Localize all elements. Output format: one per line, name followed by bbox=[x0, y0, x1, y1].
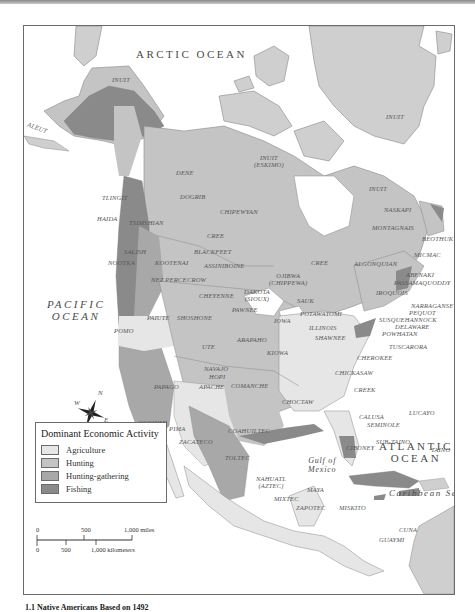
label-tlingit: TLINGIT bbox=[102, 194, 128, 201]
legend-item-fishing: Fishing bbox=[41, 484, 92, 494]
label-papago: PAPAGO bbox=[154, 383, 179, 390]
label-passamaquoddy: PASSAMAQUODDY bbox=[394, 279, 451, 286]
label-inuit-greenland: INUIT bbox=[386, 113, 404, 120]
label-tuscarora: TUSCARORA bbox=[389, 343, 427, 350]
label-potawatomi: POTAWATOMI bbox=[300, 310, 342, 317]
label-maya: MAYA bbox=[307, 486, 324, 493]
label-cree-east: CREE bbox=[311, 259, 328, 266]
label-crow: CROW bbox=[187, 276, 206, 283]
label-comanche: COMANCHE bbox=[231, 382, 268, 389]
label-taino: TAINO bbox=[431, 446, 450, 453]
swatch-agriculture bbox=[41, 445, 59, 455]
label-creek: CREEK bbox=[354, 386, 376, 393]
label-powhatan: POWHATAN bbox=[382, 330, 418, 337]
label-algonquian: ALGONQUIAN bbox=[354, 260, 397, 267]
arctic-ocean-label: ARCTIC OCEAN bbox=[136, 48, 247, 60]
label-cree-west: CREE bbox=[207, 232, 224, 239]
label-kiowa: KIOWA bbox=[267, 349, 288, 356]
label-hopi: HOPI bbox=[209, 373, 225, 380]
label-sauk: SAUK bbox=[297, 297, 314, 304]
label-nez-perce: NEZ PERCE bbox=[151, 276, 187, 283]
label-montagnais: MONTAGNAIS bbox=[372, 224, 414, 231]
label-tsimshian: TSIMSHIAN bbox=[129, 219, 164, 226]
label-shoshone: SHOSHONE bbox=[177, 314, 212, 321]
label-lucayo: LUCAYO bbox=[409, 409, 435, 416]
label-blackfeet: BLACKFEET bbox=[194, 248, 232, 255]
label-narragansett: NARRAGANSETT bbox=[411, 302, 455, 309]
label-dogrib: DOGRIB bbox=[180, 193, 205, 200]
swatch-hunting bbox=[41, 458, 59, 468]
label-cheyenne: CHEYENNE bbox=[199, 292, 234, 299]
map-frame: ARCTIC OCEAN PACIFIC OCEAN ATLANTIC OCEA… bbox=[23, 25, 455, 595]
label-inuit-eskimo: INUIT (ESKIMO) bbox=[254, 154, 284, 168]
label-apache: APACHE bbox=[199, 383, 224, 390]
label-abenaki: ABENAKI bbox=[406, 271, 434, 278]
legend-item-hunting-gathering: Hunting-gathering bbox=[41, 471, 129, 481]
label-haida: HAIDA bbox=[97, 215, 118, 222]
top-border bbox=[0, 0, 475, 4]
label-illinois: ILLINOIS bbox=[309, 324, 337, 331]
label-cuna: CUNA bbox=[399, 526, 417, 533]
label-navajo: NAVAJO bbox=[204, 365, 228, 372]
label-nootka: NOOTKA bbox=[108, 259, 135, 266]
legend-item-agriculture: Agriculture bbox=[41, 445, 105, 455]
label-iroquois: IROQUOIS bbox=[376, 289, 408, 296]
label-miskito: MISKITO bbox=[339, 504, 366, 511]
swatch-fishing bbox=[41, 484, 59, 494]
label-zapotec: ZAPOTEC bbox=[296, 504, 326, 511]
map-caption: 1.1 Native Americans Based on 1492 bbox=[25, 603, 149, 612]
label-micmac: MICMAC bbox=[414, 251, 441, 258]
scale-bar: 0 500 1,000 miles 0 500 1,000 kilometers bbox=[36, 526, 186, 560]
caribbean-sea-label: Caribbean Sea bbox=[389, 489, 455, 498]
label-delaware: DELAWARE bbox=[395, 323, 429, 330]
swatch-hunting-gathering bbox=[41, 471, 59, 481]
gulf-of-mexico-label: Gulf of Mexico bbox=[308, 456, 336, 474]
legend: Dominant Economic Activity Agriculture H… bbox=[35, 422, 167, 503]
label-beothuk: BEOTHUK bbox=[422, 235, 453, 242]
compass-n: N bbox=[98, 390, 103, 397]
label-inuit-labrador: INUIT bbox=[369, 185, 387, 192]
label-dene: DENE bbox=[176, 169, 194, 176]
label-coahuiltec: COAHUILTEC bbox=[228, 427, 270, 434]
label-kootenai: KOOTENAI bbox=[155, 259, 188, 266]
label-cherokee: CHEROKEE bbox=[357, 354, 393, 361]
label-arapaho: ARAPAHO bbox=[237, 336, 267, 343]
label-iowa: IOWA bbox=[274, 317, 291, 324]
label-pequot: PEQUOT bbox=[409, 309, 436, 316]
label-guaymi: GUAYMI bbox=[379, 536, 404, 543]
label-susquehannock: SUSQUEHANNOCK bbox=[379, 316, 437, 323]
compass-w: W bbox=[74, 400, 80, 407]
legend-title: Dominant Economic Activity bbox=[41, 428, 159, 439]
label-calusa: CALUSA bbox=[359, 413, 384, 420]
label-zacateco: ZACATECO bbox=[179, 438, 213, 445]
label-ute: UTE bbox=[202, 343, 215, 350]
label-salish: SALISH bbox=[124, 248, 146, 255]
label-mixtec: MIXTEC bbox=[274, 495, 299, 502]
label-dakota: DAKOTA (SIOUX) bbox=[244, 288, 270, 302]
label-toltec: TOLTEC bbox=[225, 454, 250, 461]
label-chickasaw: CHICKASAW bbox=[335, 369, 373, 376]
label-choctaw: CHOCTAW bbox=[282, 398, 314, 405]
label-inuit-alaska: INUIT bbox=[112, 76, 130, 83]
label-ojibwa: OJIBWA (CHIPPEWA) bbox=[269, 272, 307, 286]
pacific-ocean-label: PACIFIC OCEAN bbox=[47, 298, 105, 322]
label-shawnee: SHAWNEE bbox=[315, 334, 346, 341]
label-pima: PIMA bbox=[169, 425, 185, 432]
label-ciboney: CIBONEY bbox=[346, 444, 375, 451]
label-paiute: PAIUTE bbox=[147, 314, 170, 321]
label-pomo: POMO bbox=[114, 327, 134, 334]
label-chipewyan: CHIPEWYAN bbox=[220, 208, 258, 215]
legend-item-hunting: Hunting bbox=[41, 458, 94, 468]
label-seminole: SEMINOLE bbox=[367, 421, 400, 428]
label-sub-taino: SUB-TAINO bbox=[376, 438, 410, 445]
label-pawnee: PAWNEE bbox=[232, 306, 258, 313]
label-assiniboine: ASSINIBOINE bbox=[204, 262, 244, 269]
label-nahuatl: NAHUATL (AZTEC) bbox=[256, 475, 286, 489]
label-naskapi: NASKAPI bbox=[384, 206, 411, 213]
